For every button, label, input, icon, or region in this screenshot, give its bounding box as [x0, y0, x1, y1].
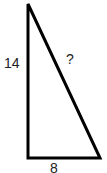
hypotenuse-label: ?	[66, 52, 74, 66]
horizontal-leg-label: 8	[50, 161, 58, 173]
vertical-leg-label: 14	[4, 56, 20, 70]
right-triangle	[0, 0, 107, 173]
